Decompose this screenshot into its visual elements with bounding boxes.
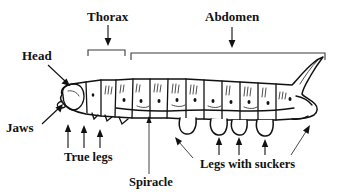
spiracle-dot-6	[194, 98, 197, 102]
suckers-arrow-head-2	[236, 137, 242, 145]
caterpillar-illustration	[57, 57, 323, 136]
true-legs-arrow-head-3	[97, 129, 103, 137]
thorax-annotation: Thorax	[87, 9, 129, 56]
proleg-sucker-1	[179, 118, 196, 134]
spiracle-dot-10	[267, 101, 270, 105]
suckers-diagonal-arrow-shaft-right	[291, 130, 307, 155]
true-legs-arrow-head-2	[81, 125, 87, 133]
abdomen-annotation: Abdomen	[131, 9, 325, 60]
thorax-bracket	[88, 50, 125, 56]
head-label: Head	[22, 48, 52, 63]
spiracle-dot-8	[230, 100, 233, 104]
jaws-arrow-shaft	[42, 108, 59, 124]
spiracle-annotation: Spiracle	[129, 116, 173, 189]
head-annotation: Head	[22, 48, 70, 86]
proleg-sucker-3	[231, 120, 247, 135]
thorax-arrow-head	[105, 38, 112, 46]
head-arrow-shaft	[48, 65, 66, 82]
abdomen-label: Abdomen	[205, 9, 260, 24]
proleg-sucker-2	[210, 119, 227, 135]
spiracle-dot-11	[289, 97, 292, 101]
proleg-sucker-4	[256, 120, 273, 136]
suckers-diagonal-arrow-head-right	[303, 125, 310, 134]
spiracle-dot-1	[92, 93, 95, 96]
spiracle-dot-5	[176, 98, 179, 102]
abdomen-arrow-head	[229, 40, 236, 48]
abdomen-bracket	[131, 53, 325, 60]
jaws-label: Jaws	[6, 120, 33, 135]
spiracle-dot-4	[158, 99, 161, 103]
thorax-label: Thorax	[87, 9, 129, 24]
spiracle-dot-2	[123, 98, 126, 102]
spiracle-dot-3	[140, 99, 143, 103]
figure-canvas: Thorax Abdomen	[0, 0, 349, 195]
true-legs-arrow-head-1	[65, 124, 71, 132]
suckers-arrow-head-3	[262, 139, 268, 147]
true-legs-label: True legs	[64, 150, 113, 164]
legs-with-suckers-label: Legs with suckers	[200, 157, 295, 171]
spiracle-dot-7	[212, 99, 215, 103]
jaws-annotation: Jaws	[6, 104, 63, 135]
suckers-arrow-head-1	[216, 137, 222, 145]
suckers-diagonal-arrow-shaft-left	[179, 142, 193, 158]
spiracle-dot-9	[248, 100, 251, 104]
true-legs-annotation: True legs	[64, 124, 113, 164]
caterpillar-diagram: Thorax Abdomen	[0, 0, 349, 195]
spiracle-label: Spiracle	[129, 175, 173, 189]
